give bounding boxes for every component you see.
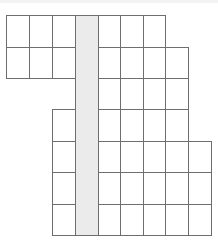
grid-cell (188, 172, 212, 205)
grid-cell (120, 141, 144, 173)
grid-cell (120, 47, 144, 79)
grid-cell (52, 109, 76, 142)
grid-cell (143, 47, 166, 79)
grid-cell (120, 172, 144, 205)
grid-cell (98, 172, 121, 205)
grid-cell (120, 15, 144, 48)
grid-cell (6, 47, 30, 79)
grid-cell (188, 141, 212, 173)
grid-cell (143, 141, 166, 173)
grid-cell (143, 172, 166, 205)
grid-cell (98, 204, 121, 236)
grid-cell (143, 204, 166, 236)
grid-cell (188, 204, 212, 236)
grid-cell (52, 141, 76, 173)
grid-cell (143, 15, 166, 48)
grid-cell (98, 109, 121, 142)
grid-cell (98, 47, 121, 79)
grid-cell (143, 109, 166, 142)
grid-cell (165, 141, 189, 173)
grid-cell (98, 78, 121, 110)
grid-cell (120, 78, 144, 110)
grid-cell (52, 15, 76, 48)
grid-cell (165, 109, 189, 142)
grid-cell (165, 47, 189, 79)
grid-cell (98, 15, 121, 48)
grid-cell (165, 78, 189, 110)
grid-cell (52, 204, 76, 236)
grid-cell (165, 172, 189, 205)
grid-cell (52, 47, 76, 79)
shaded-column (75, 15, 99, 236)
grid-cell (29, 47, 53, 79)
grid-cell (120, 109, 144, 142)
grid-cell (165, 204, 189, 236)
grid-cell (52, 172, 76, 205)
grid-cell (98, 141, 121, 173)
grid-cell (29, 15, 53, 48)
grid-cell (143, 78, 166, 110)
top-edge-strip (0, 0, 218, 3)
grid-cell (6, 15, 30, 48)
grid-cell (120, 204, 144, 236)
